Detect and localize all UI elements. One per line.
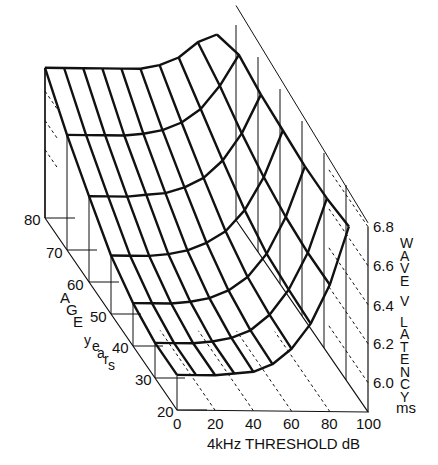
x-tick-0: 0 bbox=[173, 416, 181, 431]
z-axis-unit: ms bbox=[396, 400, 416, 415]
age-title-s: s bbox=[108, 358, 115, 372]
x-tick-40: 40 bbox=[245, 416, 262, 431]
x-tick-100: 100 bbox=[356, 416, 381, 431]
z-tick-6-6: 6.6 bbox=[373, 258, 394, 273]
x-tick-80: 80 bbox=[321, 416, 338, 431]
x-axis-title: 4kHz THRESHOLD dB bbox=[207, 436, 360, 451]
z-tick-6-0: 6.0 bbox=[373, 375, 394, 390]
age-tick-30: 30 bbox=[135, 372, 152, 387]
age-tick-50: 50 bbox=[90, 309, 107, 324]
x-tick-20: 20 bbox=[207, 416, 224, 431]
age-title-y: y bbox=[84, 333, 91, 347]
z-tick-6-4: 6.4 bbox=[373, 298, 394, 313]
age-title-E: E bbox=[73, 315, 83, 329]
z-title-letter: E bbox=[400, 274, 409, 288]
z-tick-6-8: 6.8 bbox=[373, 219, 394, 234]
z-tick-6-2: 6.2 bbox=[373, 336, 394, 351]
x-tick-60: 60 bbox=[283, 416, 300, 431]
age-tick-40: 40 bbox=[112, 340, 129, 355]
age-tick-80: 80 bbox=[24, 212, 41, 227]
age-tick-20: 20 bbox=[157, 404, 174, 419]
age-tick-70: 70 bbox=[46, 245, 63, 260]
z-title-letter: V bbox=[400, 294, 409, 308]
